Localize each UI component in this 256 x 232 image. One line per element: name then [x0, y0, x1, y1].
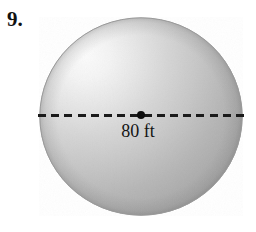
clipped-caption-text [0, 225, 256, 229]
problem-number-label: 9. [7, 9, 23, 30]
diameter-measurement-label: 80 ft [0, 122, 256, 141]
figure-container: 9. [0, 0, 256, 232]
center-point-marker [137, 111, 145, 119]
